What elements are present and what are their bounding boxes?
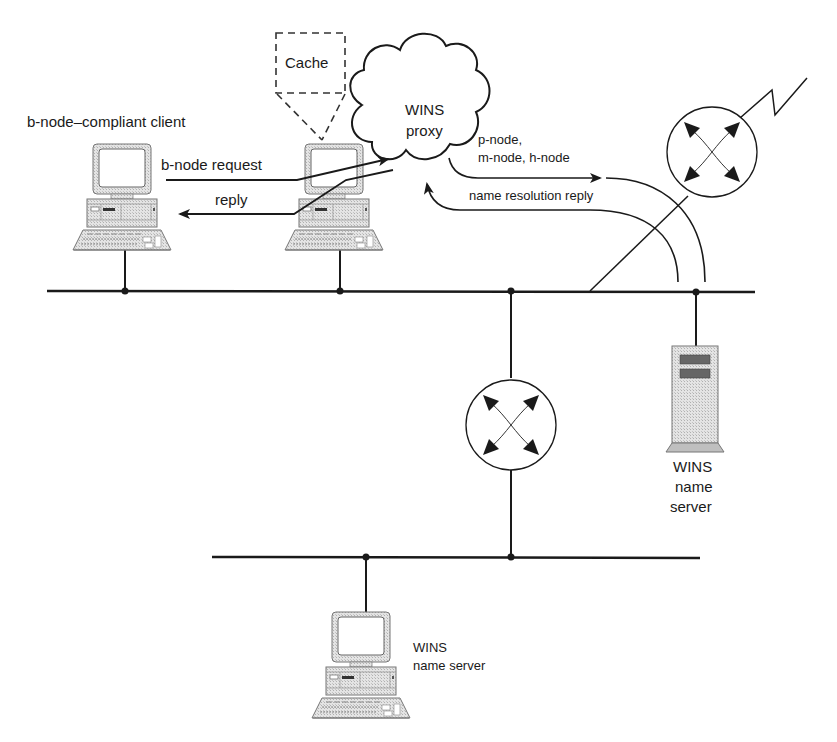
server-tower-label-line2: name	[675, 478, 713, 495]
proxy-computer[interactable]	[285, 144, 383, 250]
server-pc-drop	[363, 554, 370, 613]
server-tower-drop	[693, 289, 700, 347]
server-tower-label-line1: WINS	[673, 458, 712, 475]
proxy-label-line1: WINS	[405, 101, 444, 118]
node-types-label-line2: m-node, h-node	[478, 150, 570, 165]
proxy-drop	[337, 244, 344, 295]
upper-lan-segment	[47, 291, 755, 292]
node-types-label-line1: p-node,	[478, 132, 522, 147]
server-pc-label-line1: WINS	[413, 640, 447, 655]
client-drop	[122, 244, 129, 295]
server-pc-label-line2: name server	[413, 658, 486, 673]
router-top-icon[interactable]	[667, 107, 757, 197]
client-computer[interactable]	[73, 144, 171, 250]
wins-proxy-diagram: b-node–compliant client Cache WINS proxy…	[0, 0, 837, 742]
router-middle-icon[interactable]	[466, 380, 556, 470]
client-label: b-node–compliant client	[27, 113, 186, 130]
cache-box	[276, 33, 345, 140]
proxy-label-line2: proxy	[406, 122, 443, 139]
name-resolution-reply-label: name resolution reply	[469, 188, 594, 203]
wins-server-tower[interactable]	[666, 346, 724, 452]
reply-label: reply	[215, 191, 248, 208]
wins-proxy-cloud	[350, 34, 489, 160]
lower-lan-segment	[212, 557, 700, 558]
wins-server-computer[interactable]	[312, 612, 410, 718]
server-tower-label-line3: server	[670, 498, 712, 515]
cache-label: Cache	[285, 54, 328, 71]
node-request-arrow	[449, 158, 705, 282]
request-label: b-node request	[161, 156, 263, 173]
